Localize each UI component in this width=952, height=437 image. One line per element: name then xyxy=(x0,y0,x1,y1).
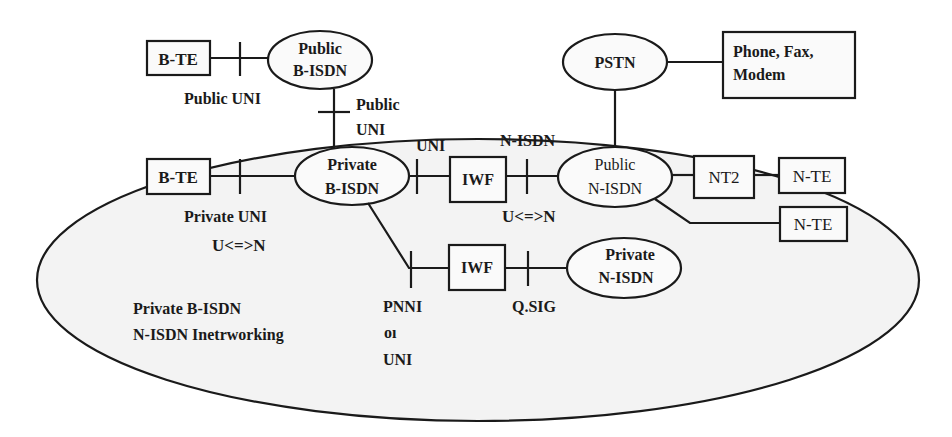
phone-label-2: Modem xyxy=(733,66,786,83)
node-public-bisdn: Public B-ISDN xyxy=(268,31,372,89)
phone-label-1: Phone, Fax, xyxy=(733,43,813,60)
node-pstn: PSTN xyxy=(563,34,667,90)
region-label-2: N-ISDN Inetrworking xyxy=(133,326,284,344)
public-bisdn-label-2: B-ISDN xyxy=(293,62,348,79)
node-nte-2: N-TE xyxy=(780,207,847,241)
bte-public-label: B-TE xyxy=(158,50,198,69)
pnni-label-1: PNNI xyxy=(383,298,422,315)
private-bisdn-label-2: B-ISDN xyxy=(325,180,380,197)
pnni-label-2: oı xyxy=(384,324,397,341)
public-nisdn-label-2: N-ISDN xyxy=(588,180,643,197)
iwf-bottom-label: IWF xyxy=(461,259,493,276)
public-uni-label: Public UNI xyxy=(184,90,261,107)
nt2-label: NT2 xyxy=(708,168,739,187)
region-label-1: Private B-ISDN xyxy=(133,300,241,317)
public-uni-vertical-label-2: UNI xyxy=(356,121,385,138)
private-bisdn-label-1: Private xyxy=(327,156,377,173)
private-nisdn-label-1: Private xyxy=(605,246,655,263)
node-iwf-bottom: IWF xyxy=(449,245,505,290)
node-public-nisdn: Public N-ISDN xyxy=(558,147,672,207)
public-nisdn-label-1: Public xyxy=(595,156,636,173)
node-bte-public: B-TE xyxy=(147,41,210,75)
private-uni-label: Private UNI xyxy=(184,208,267,225)
interworking-diagram: B-TE Public B-ISDN Public UNI Public UNI… xyxy=(0,0,952,437)
node-private-nisdn: Private N-ISDN xyxy=(567,238,681,298)
nisdn-top-label: N-ISDN xyxy=(500,132,556,149)
node-bte-private: B-TE xyxy=(147,159,210,194)
iwf-top-label: IWF xyxy=(462,171,494,188)
node-private-bisdn: Private B-ISDN xyxy=(295,147,409,205)
public-uni-vertical-label-1: Public xyxy=(356,96,400,113)
node-nt2: NT2 xyxy=(694,156,754,198)
u-n-left-label: U<=>N xyxy=(212,236,266,255)
private-nisdn-label-2: N-ISDN xyxy=(598,269,654,286)
node-phone-fax-modem: Phone, Fax, Modem xyxy=(723,32,855,98)
bte-private-label: B-TE xyxy=(158,168,198,187)
u-n-right-label: U<=>N xyxy=(502,207,556,226)
pnni-label-3: UNI xyxy=(383,351,412,368)
qsig-label: Q.SIG xyxy=(512,298,557,315)
node-nte-1: N-TE xyxy=(779,158,845,193)
nte-2-label: N-TE xyxy=(794,215,833,234)
public-bisdn-label-1: Public xyxy=(298,40,342,57)
uni-top-label: UNI xyxy=(416,137,445,154)
pstn-label: PSTN xyxy=(595,54,636,71)
node-iwf-top: IWF xyxy=(450,157,506,202)
nte-1-label: N-TE xyxy=(793,167,832,186)
